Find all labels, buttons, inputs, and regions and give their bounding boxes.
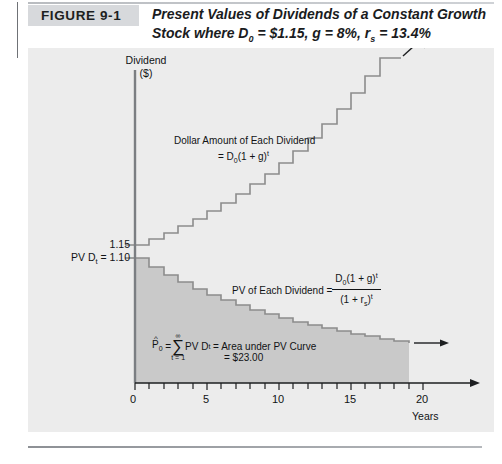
pv-den-a: (1 + r xyxy=(340,295,364,306)
y-tick-pv-value: = 1.10 xyxy=(98,251,130,263)
figure-title-line2-b: = $1.15, g = 8%, r xyxy=(254,25,371,41)
figure-title-line2-a: Stock where D xyxy=(152,25,248,41)
figure-title-line1: Present Values of Dividends of a Constan… xyxy=(152,6,486,22)
figure-number-label: FIGURE 9-1 xyxy=(41,8,121,23)
price-equals-1: = xyxy=(163,341,172,352)
price-pvd-label: PV D xyxy=(185,341,208,352)
y-axis-title-line1: Dividend xyxy=(116,54,176,66)
y-tick-label-pv-d1: PV Dt = 1.10 xyxy=(46,251,130,266)
y-axis-title-line2: ($) xyxy=(116,67,176,79)
annotation-dividend-line1: Dollar Amount of Each Dividend xyxy=(174,134,315,147)
y-tick-label-115: 1.15 xyxy=(92,238,130,250)
annotation-pv-label: PV of Each Dividend = xyxy=(232,285,332,296)
sigma-icon: ∑ xyxy=(171,339,185,354)
pv-num-b: (1 + g) xyxy=(346,273,375,284)
x-axis-arrow-head xyxy=(470,379,480,387)
pv-arrow-head xyxy=(440,340,449,347)
bottom-divider-rule xyxy=(28,446,482,448)
annotation-pv-numerator: D0(1 + g)t xyxy=(332,269,380,289)
dividend-arrow-shaft xyxy=(403,48,424,56)
pv-num-a: D xyxy=(335,273,342,284)
top-divider-rule xyxy=(28,2,494,4)
x-tick-label-0: 0 xyxy=(130,393,136,405)
annotation-pv-denominator: (1 + rs)t xyxy=(332,289,380,310)
annotation-pv-formula: PV of Each Dividend =D0(1 + g)t(1 + rs)t xyxy=(232,270,381,312)
figure-title: Present Values of Dividends of a Constan… xyxy=(152,5,492,49)
figure-chart-panel: Dividend ($) 1.15 PV Dt = 1.10 0 5 10 15… xyxy=(28,48,494,432)
p-subscript: 0 xyxy=(159,345,163,352)
pv-num-sup: t xyxy=(376,272,378,279)
pv-den-sup: t xyxy=(371,293,373,300)
x-tick-label-10: 10 xyxy=(272,393,284,405)
figure-title-line2-c: = 13.4% xyxy=(375,25,431,41)
annotation-dividend-rest: (1 + g) xyxy=(238,151,267,162)
price-equals-2: = Area under PV Curve xyxy=(210,341,316,352)
left-tab-rule xyxy=(17,2,18,58)
x-tick-label-20: 20 xyxy=(416,393,428,405)
dividend-arrow-head xyxy=(418,48,427,49)
annotation-dividend-eq: = D xyxy=(218,151,234,162)
p-hat-accent: ^ xyxy=(154,332,158,345)
summation-lower-limit: t = 1 xyxy=(171,354,185,361)
summation-symbol-block: ∞∑t = 1 xyxy=(171,333,185,361)
x-tick-label-15: 15 xyxy=(344,393,356,405)
x-axis-title: Years xyxy=(412,410,438,422)
x-axis-ticks xyxy=(135,383,423,390)
annotation-dividend-line2: = D0(1 + g)t xyxy=(218,147,269,167)
annotation-price-p: ^P0 xyxy=(152,339,163,350)
y-tick-pv-prefix: PV D xyxy=(71,251,96,263)
annotation-price-value: = $23.00 xyxy=(224,351,263,364)
annotation-dividend-sup: t xyxy=(267,150,269,157)
annotation-pv-fraction: D0(1 + g)t(1 + rs)t xyxy=(332,269,380,311)
x-tick-label-5: 5 xyxy=(203,393,209,405)
